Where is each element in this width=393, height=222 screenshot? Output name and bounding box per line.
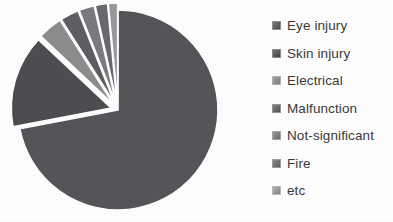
legend-item[interactable]: Malfunction [272, 95, 393, 123]
legend-item[interactable]: Eye injury [272, 12, 393, 40]
legend-item-label: Eye injury [287, 12, 347, 40]
pie-chart-figure: Eye injurySkin injuryElectricalMalfuncti… [0, 0, 393, 222]
legend-swatch-icon [272, 76, 281, 85]
legend-item-label: Not-significant [287, 122, 374, 150]
legend-item[interactable]: Electrical [272, 67, 393, 95]
legend-swatch-icon [272, 131, 281, 140]
legend-swatch-icon [272, 159, 281, 168]
legend-swatch-icon [272, 49, 281, 58]
legend-item-label: etc [287, 177, 305, 205]
legend-item[interactable]: Not-significant [272, 122, 393, 150]
legend-swatch-icon [272, 104, 281, 113]
pie-plot-area [0, 0, 250, 222]
chart-legend: Eye injurySkin injuryElectricalMalfuncti… [272, 12, 393, 212]
legend-item-label: Malfunction [287, 95, 357, 123]
legend-swatch-icon [272, 186, 281, 195]
legend-item-label: Electrical [287, 67, 343, 95]
pie-slice-group [11, 3, 218, 210]
legend-item-label: Skin injury [287, 40, 350, 68]
legend-item[interactable]: etc [272, 177, 393, 205]
legend-swatch-icon [272, 21, 281, 30]
pie-svg [0, 0, 250, 222]
legend-item[interactable]: Skin injury [272, 40, 393, 68]
legend-item-label: Fire [287, 150, 311, 178]
legend-item[interactable]: Fire [272, 150, 393, 178]
